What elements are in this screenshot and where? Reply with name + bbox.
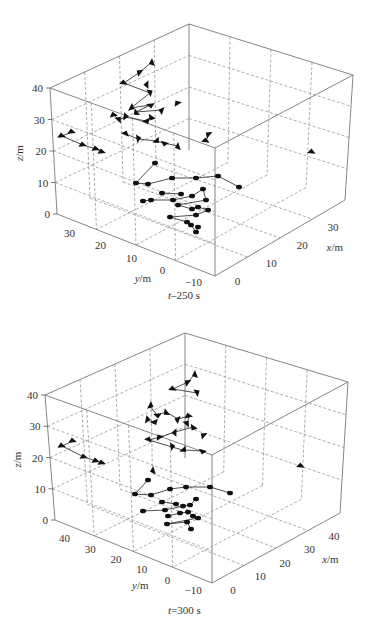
agent-marker-dot xyxy=(193,497,199,502)
z-tick-label: 10 xyxy=(37,177,49,189)
chart-3d-t250: 0102030403020100−100102030z/my/mx/m xyxy=(0,0,367,315)
x-tick-label: 10 xyxy=(255,570,267,582)
agent-marker-dot xyxy=(167,487,173,492)
z-tick-label: 0 xyxy=(45,208,51,220)
agent-marker-dot xyxy=(165,514,171,519)
agent-marker-dot xyxy=(188,527,194,532)
agent-marker-arrow xyxy=(78,141,87,149)
y-tick-label: 10 xyxy=(136,563,148,575)
z-tick-label: 40 xyxy=(32,82,44,94)
agent-marker-arrow xyxy=(145,401,155,411)
agent-marker-arrow xyxy=(175,142,181,150)
chart-3d-t300: 010203040403020100−10010203040z/my/mx/m xyxy=(0,315,367,631)
agent-marker-dot xyxy=(193,176,199,181)
agent-marker-dot xyxy=(159,191,165,196)
agent-marker-arrow xyxy=(162,407,170,416)
agent-marker-dot xyxy=(148,493,154,498)
agent-marker-arrow xyxy=(150,466,156,474)
x-tick-label: 40 xyxy=(329,530,341,542)
axes-frame: 0102030403020100−100102030z/my/mx/m xyxy=(13,24,353,288)
agent-marker-dot xyxy=(184,520,190,525)
agent-marker-dot xyxy=(140,509,146,514)
x-tick-label: 10 xyxy=(266,257,278,269)
agent-marker-arrow xyxy=(120,112,129,122)
z-tick-label: 0 xyxy=(43,514,49,526)
y-tick-label: 0 xyxy=(160,264,166,276)
agent-marker-dot xyxy=(187,503,193,508)
agent-marker-dot xyxy=(185,510,191,515)
agent-marker-dot xyxy=(169,176,175,181)
z-axis-label: z/m xyxy=(11,451,23,468)
agent-marker-dot xyxy=(173,502,179,507)
agent-marker-dot xyxy=(159,500,165,505)
x-axis-label: x/m xyxy=(326,241,344,253)
y-tick-label: −10 xyxy=(185,276,203,288)
agent-marker-arrow xyxy=(143,79,151,89)
agent-marker-dot xyxy=(145,182,151,187)
agent-marker-dot xyxy=(195,225,201,230)
agent-marker-arrow xyxy=(296,462,306,471)
x-tick-label: 0 xyxy=(230,584,236,596)
data-markers xyxy=(57,58,317,234)
agent-marker-arrow xyxy=(173,414,183,424)
agent-marker-arrow xyxy=(193,389,200,398)
agent-marker-arrow xyxy=(183,377,193,386)
z-tick-label: 40 xyxy=(27,389,39,401)
agent-marker-dot xyxy=(193,213,199,218)
x-tick-label: 0 xyxy=(235,275,241,287)
agent-marker-arrow xyxy=(173,99,182,107)
agent-marker-dot xyxy=(227,491,233,496)
z-tick-label: 30 xyxy=(30,420,42,432)
agent-marker-dot xyxy=(183,485,189,490)
agent-marker-dot xyxy=(236,185,242,190)
agent-marker-arrow xyxy=(204,129,214,138)
y-axis-label: y/m xyxy=(131,579,149,591)
agent-marker-dot xyxy=(180,504,186,509)
agent-marker-arrow xyxy=(185,413,194,420)
y-tick-label: 40 xyxy=(59,532,71,544)
agent-marker-arrow xyxy=(201,137,211,146)
agent-marker-arrow xyxy=(149,58,155,66)
agent-marker-dot xyxy=(188,223,194,228)
agent-marker-dot xyxy=(164,522,170,527)
agent-marker-dot xyxy=(189,194,195,199)
caption-t250: t–250 s xyxy=(168,289,200,301)
agent-marker-arrow xyxy=(79,453,88,461)
z-tick-label: 20 xyxy=(36,145,48,157)
panel-t250: 0102030403020100−100102030z/my/mx/m t–25… xyxy=(0,0,367,315)
x-axis-label: x/m xyxy=(321,553,339,565)
agent-marker-arrow xyxy=(307,148,317,157)
agent-marker-dot xyxy=(195,516,201,521)
agent-marker-dot xyxy=(205,208,211,213)
y-tick-label: 30 xyxy=(64,227,76,239)
agent-marker-dot xyxy=(175,203,181,208)
agent-marker-arrow xyxy=(146,89,153,98)
agent-marker-dot xyxy=(133,181,139,186)
caption-value: =300 s xyxy=(171,604,201,616)
agent-marker-arrow xyxy=(171,427,179,437)
agent-marker-arrow xyxy=(97,459,106,467)
agent-marker-arrow xyxy=(168,385,178,394)
agent-marker-arrow xyxy=(67,128,76,136)
agent-marker-dot xyxy=(195,205,201,210)
agent-marker-dot xyxy=(162,508,168,513)
z-tick-label: 20 xyxy=(32,452,44,464)
y-tick-label: 20 xyxy=(95,239,107,251)
y-tick-label: −10 xyxy=(185,584,203,596)
agent-marker-arrow xyxy=(57,132,66,140)
y-tick-label: 20 xyxy=(110,553,122,565)
y-axis-label: y/m xyxy=(134,272,152,284)
agent-marker-arrow xyxy=(159,138,169,148)
caption-t300: t=300 s xyxy=(168,604,201,616)
x-tick-label: 30 xyxy=(304,543,316,555)
agent-marker-dot xyxy=(167,215,173,220)
agent-marker-dot xyxy=(215,174,221,179)
agent-marker-dot xyxy=(177,511,183,516)
agent-marker-dot xyxy=(170,198,176,203)
agent-marker-dot xyxy=(140,199,146,204)
agent-marker-dot xyxy=(189,207,195,212)
x-tick-label: 30 xyxy=(328,221,340,233)
axes-frame: 010203040403020100−10010203040z/my/mx/m xyxy=(11,333,348,596)
panel-t300: 010203040403020100−10010203040z/my/mx/m … xyxy=(0,315,367,631)
agent-marker-dot xyxy=(200,187,206,192)
